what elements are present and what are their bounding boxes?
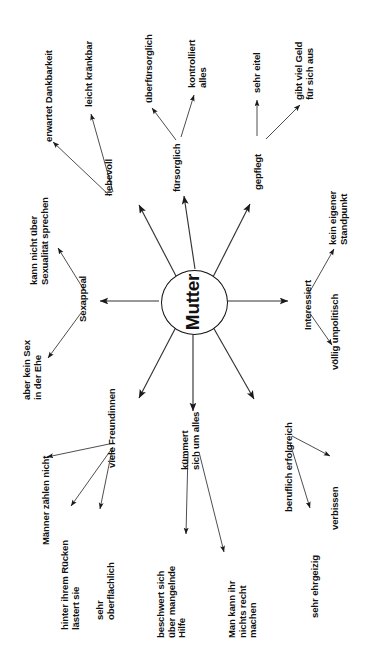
edge-fuersorglich-ueber [152,108,176,140]
edge-liebevoll-erwartet [53,142,110,196]
sub-label-sehr-oberflaechlich[interactable]: sehr oberflächlich [95,562,116,620]
sub-label-kein-eigener-standpunkt[interactable]: kein eigener Standpunkt [328,191,349,245]
sub-label-kann-nicht-ueber-sexualitaet[interactable]: kann nicht über Sexualität sprechen [29,197,50,285]
sub-label-verbissen[interactable]: verbissen [330,487,341,530]
edge-freundinnen-maenner [47,443,114,457]
branch-label-fuersorglich[interactable]: fürsorglich [172,144,183,192]
sub-label-beschwert-sich[interactable]: beschwert sich über mangelnde Hilfe [156,566,188,638]
sub-label-ueberfuersorglich[interactable]: überfürsorglich [144,34,155,103]
branch-label-kuemmert-sich-um-alles[interactable]: kümmert sich um alles [180,412,201,470]
mindmap-canvas: Mutter liebevoll fürsorglich gepflegt In… [0,0,371,645]
sub-label-maenner-zaehlen-nicht[interactable]: Männer zählen nicht [41,456,52,545]
edge-center-gepflegt [213,204,250,277]
branch-label-sexappeal[interactable]: Sexappeal [78,276,89,322]
branch-label-liebevoll[interactable]: liebevoll [104,159,115,196]
edge-beruflich-verbissen [292,436,330,456]
sub-label-sehr-ehrgeizig[interactable]: sehr ehrgeizig [310,555,321,618]
sub-label-aber-kein-sex[interactable]: aber kein Sex in der Ehe [22,340,43,400]
sub-label-sehr-eitel[interactable]: sehr eitel [252,52,263,93]
center-node-label-wrap: Mutter [161,270,226,333]
sub-label-gibt-viel-geld[interactable]: gibt viel Geld für sich aus [294,42,315,100]
edge-center-freundinnen [139,327,176,398]
sub-label-hinter-ihrem-ruecken[interactable]: hinter ihrem Rücken lästert sie [60,540,81,630]
edge-center-fuersorglich [184,196,195,269]
sub-label-leicht-kraenkbar[interactable]: leicht kränkbar [84,41,95,107]
branch-label-viele-freundinnen[interactable]: viele Freundinnen [107,388,118,468]
branch-label-interessiert[interactable]: Interessiert [303,280,314,330]
edge-kuemmert-nichtsrecht [199,452,224,552]
sub-label-voellig-unpolitisch[interactable]: völlig unpolitisch [330,294,341,370]
sub-label-erwartet-dankbarkeit[interactable]: erwartet Dankbarkeit [44,50,55,142]
edge-fuersorglich-kontroll [181,95,194,137]
center-node-label: Mutter [183,273,205,329]
branch-label-beruflich-erfolgreich[interactable]: beruflich erfolgreich [284,422,295,512]
edge-center-liebevoll [139,205,176,276]
sub-label-kontrolliert-alles[interactable]: kontrolliert alles [187,40,208,88]
branch-label-gepflegt[interactable]: gepflegt [253,154,264,190]
sub-label-nichts-recht-machen[interactable]: Man kann ihr nichts recht machen [227,581,259,638]
edge-gepflegt-geld [266,105,300,139]
edge-center-beruflich [213,327,254,399]
